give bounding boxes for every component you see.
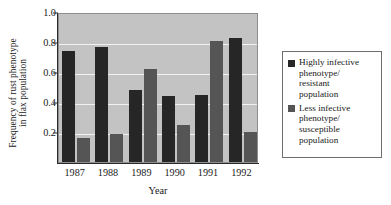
bar: [244, 132, 257, 162]
bar-chart-figure: Frequency of rust phenotype in flax popu…: [0, 0, 391, 205]
y-axis-tick-label: 0.6: [2, 68, 56, 78]
x-axis-tick-label: 1992: [221, 168, 261, 178]
y-axis-tick-mark: [53, 73, 58, 74]
bar-group: [92, 14, 125, 162]
y-axis-tick-label: 0.4: [2, 98, 56, 108]
bar: [177, 125, 190, 163]
bar: [62, 51, 75, 162]
bar-group: [126, 14, 159, 162]
y-axis-tick-mark: [53, 103, 58, 104]
bar-series-container: [59, 14, 257, 162]
bar-group: [226, 14, 259, 162]
legend-item: Highly infective phenotype/ resistant po…: [288, 57, 377, 100]
bar-group: [59, 14, 92, 162]
legend-item: Less infective phenotype/ susceptible po…: [288, 103, 377, 146]
x-axis-title: Year: [58, 186, 258, 196]
bar: [144, 69, 157, 162]
bar: [195, 95, 208, 163]
bar: [129, 90, 142, 162]
bar: [162, 96, 175, 162]
y-axis-tick-label: 0.2: [2, 128, 56, 138]
bar: [210, 41, 223, 163]
legend-label: Highly infective phenotype/ resistant po…: [299, 57, 359, 100]
bar: [77, 138, 90, 162]
legend-swatch-icon: [288, 105, 295, 112]
y-axis-tick-label: 1.0: [2, 8, 56, 18]
bar-group: [192, 14, 225, 162]
legend-swatch-icon: [288, 60, 295, 67]
y-axis-tick-mark: [53, 133, 58, 134]
bar-group: [159, 14, 192, 162]
legend-label: Less infective phenotype/ susceptible po…: [299, 103, 350, 146]
bar: [229, 38, 242, 163]
bar: [110, 134, 123, 163]
legend: Highly infective phenotype/ resistant po…: [282, 51, 382, 158]
y-axis-tick-mark: [53, 43, 58, 44]
bar: [95, 47, 108, 163]
plot-area: [58, 13, 258, 163]
y-axis-tick-mark: [53, 13, 58, 14]
y-axis-tick-label: 0.8: [2, 38, 56, 48]
x-axis-line: [57, 163, 259, 164]
